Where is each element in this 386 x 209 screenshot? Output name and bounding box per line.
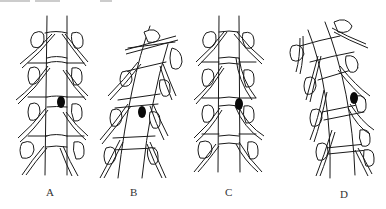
panel-label-b: B (130, 186, 137, 198)
lesion-d (350, 92, 358, 104)
panel-c-spine (194, 16, 264, 172)
crop-artifact (35, 0, 60, 2)
panel-label-d: D (340, 188, 348, 200)
panel-label-a: A (46, 186, 54, 198)
crop-artifact (0, 0, 30, 2)
panel-a-spine (16, 16, 88, 176)
lesion-b (138, 106, 146, 118)
panel-d-spine (290, 20, 374, 178)
panel-label-c: C (225, 186, 232, 198)
lesion-c (235, 98, 243, 110)
spine-diagram-figure: A B C D (0, 0, 386, 209)
lesion-a (57, 96, 65, 108)
crop-artifact (100, 0, 112, 2)
panel-b-spine (100, 26, 182, 178)
